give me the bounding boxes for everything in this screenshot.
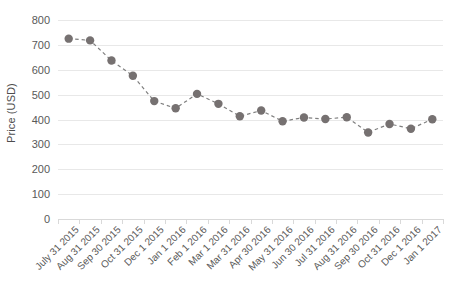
data-point-marker: [364, 128, 372, 136]
x-axis-tick: [443, 219, 444, 224]
chart-container: Price (USD) 0100200300400500600700800 Ju…: [0, 0, 460, 289]
data-point-marker: [300, 113, 308, 121]
data-point-marker: [257, 106, 265, 114]
data-point-marker: [343, 113, 351, 121]
data-point-marker: [171, 104, 179, 112]
y-axis-tick-label: 0: [6, 213, 50, 225]
data-point-marker: [278, 117, 286, 125]
data-point-marker: [407, 125, 415, 133]
data-point-marker: [193, 90, 201, 98]
data-point-marker: [64, 34, 72, 42]
data-point-marker: [385, 120, 393, 128]
y-axis-tick-label: 700: [6, 39, 50, 51]
data-point-marker: [86, 36, 94, 44]
plot-area: 0100200300400500600700800: [58, 20, 443, 219]
y-axis-tick-label: 200: [6, 163, 50, 175]
data-point-marker: [321, 115, 329, 123]
y-axis-tick-label: 500: [6, 89, 50, 101]
data-point-marker: [214, 100, 222, 108]
data-point-marker: [150, 97, 158, 105]
series-line: [69, 39, 433, 133]
data-point-marker: [428, 115, 436, 123]
data-point-marker: [107, 56, 115, 64]
y-axis-tick-label: 600: [6, 64, 50, 76]
y-axis-tick-label: 400: [6, 114, 50, 126]
data-point-marker: [236, 112, 244, 120]
data-point-marker: [129, 72, 137, 80]
x-axis-tick-labels: July 31 2015Aug 31 2015Sep 30 2015Oct 31…: [58, 224, 443, 286]
y-axis-tick-label: 800: [6, 14, 50, 26]
y-axis-tick-label: 300: [6, 138, 50, 150]
series-plot: [58, 20, 443, 219]
y-axis-tick-label: 100: [6, 188, 50, 200]
